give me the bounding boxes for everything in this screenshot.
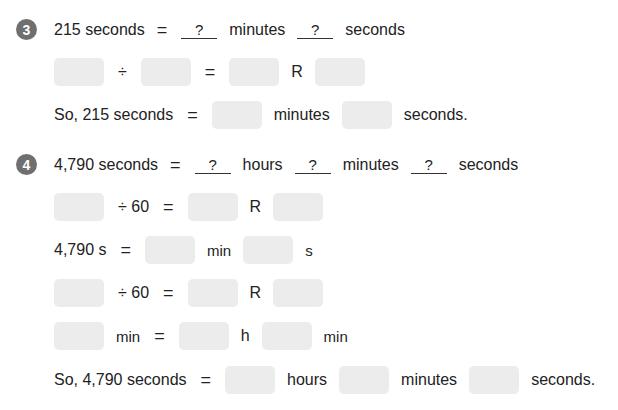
answer-box[interactable] — [188, 193, 238, 221]
answer-box[interactable] — [243, 236, 293, 264]
answer-box[interactable] — [188, 279, 238, 307]
problem4-division-1: ÷ 60 = R — [54, 193, 323, 221]
unit-label: seconds. — [404, 106, 468, 124]
equals: = — [163, 283, 174, 304]
divide-sign: ÷ — [118, 63, 127, 81]
answer-box[interactable] — [229, 58, 279, 86]
answer-box[interactable] — [212, 101, 262, 129]
unit-label: minutes — [401, 371, 457, 389]
answer-box[interactable] — [262, 322, 312, 350]
answer-blank: ? — [411, 157, 447, 174]
unit-label: hours — [243, 156, 283, 174]
answer-box[interactable] — [339, 366, 389, 394]
answer-blank: ? — [181, 22, 217, 39]
remainder-label: R — [250, 198, 262, 216]
unit-label: hours — [287, 371, 327, 389]
conclusion-prefix: So, 215 seconds — [54, 106, 173, 124]
unit-label: minutes — [229, 21, 285, 39]
equals: = — [163, 197, 174, 218]
equals: = — [201, 370, 212, 391]
answer-box[interactable] — [54, 322, 104, 350]
equals: = — [205, 62, 216, 83]
equals: = — [120, 240, 131, 261]
answer-box[interactable] — [273, 279, 323, 307]
equals: = — [154, 326, 165, 347]
unit-label: s — [305, 242, 313, 259]
equals: = — [187, 105, 198, 126]
divide-by-60: ÷ 60 — [118, 284, 149, 302]
equals: = — [157, 20, 168, 41]
answer-box[interactable] — [342, 101, 392, 129]
answer-box[interactable] — [141, 58, 191, 86]
answer-box[interactable] — [179, 322, 229, 350]
answer-box[interactable] — [54, 279, 104, 307]
answer-box[interactable] — [145, 236, 195, 264]
remainder-label: R — [291, 63, 303, 81]
problem4-division-2: ÷ 60 = R — [54, 279, 323, 307]
equals: = — [170, 155, 181, 176]
answer-blank: ? — [195, 157, 231, 174]
divide-by-60: ÷ 60 — [118, 198, 149, 216]
remainder-label: R — [250, 284, 262, 302]
lhs: 4,790 s — [54, 241, 106, 259]
answer-blank: ? — [295, 157, 331, 174]
lhs: 4,790 seconds — [54, 156, 158, 174]
answer-blank: ? — [297, 22, 333, 39]
unit-label: minutes — [343, 156, 399, 174]
unit-label: min — [207, 242, 231, 259]
unit-label: h — [241, 327, 250, 345]
problem-number-badge: 4 — [16, 154, 37, 175]
unit-label: seconds — [459, 156, 519, 174]
unit-label: seconds. — [531, 371, 595, 389]
problem4-statement: 4,790 seconds = ? hours ? minutes ? seco… — [54, 153, 518, 177]
unit-label: min — [116, 328, 140, 345]
problem3-statement: 215 seconds = ? minutes ? seconds — [54, 18, 405, 42]
conclusion-prefix: So, 4,790 seconds — [54, 371, 187, 389]
answer-box[interactable] — [273, 193, 323, 221]
problem3-division: ÷ = R — [54, 58, 365, 86]
unit-label: seconds — [345, 21, 405, 39]
answer-box[interactable] — [225, 366, 275, 394]
answer-box[interactable] — [469, 366, 519, 394]
answer-box[interactable] — [315, 58, 365, 86]
problem-number-badge: 3 — [16, 19, 37, 40]
lhs: 215 seconds — [54, 21, 145, 39]
problem4-minutes-to-hours: min = h min — [54, 322, 348, 350]
problem4-seconds-to-minutes: 4,790 s = min s — [54, 236, 313, 264]
unit-label: min — [324, 328, 348, 345]
problem3-conclusion: So, 215 seconds = minutes seconds. — [54, 101, 468, 129]
unit-label: minutes — [274, 106, 330, 124]
answer-box[interactable] — [54, 193, 104, 221]
problem4-conclusion: So, 4,790 seconds = hours minutes second… — [54, 366, 595, 394]
answer-box[interactable] — [54, 58, 104, 86]
